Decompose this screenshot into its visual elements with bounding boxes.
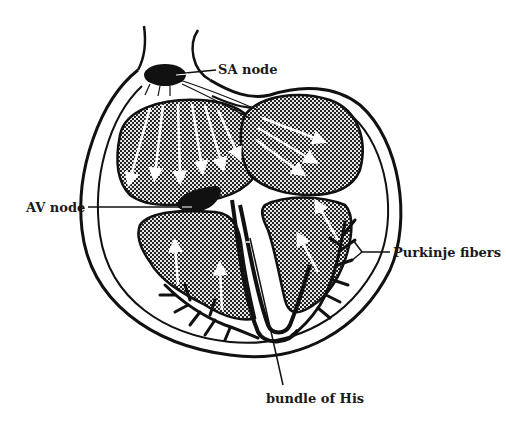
av-node-label: AV node xyxy=(26,201,85,214)
left-atrium xyxy=(241,95,363,195)
sa-node-label: SA node xyxy=(218,63,277,76)
right-atrium xyxy=(117,100,262,205)
bundle-of-his-label: bundle of His xyxy=(266,392,364,405)
purkinje-fibers-label: Purkinje fibers xyxy=(393,246,501,259)
